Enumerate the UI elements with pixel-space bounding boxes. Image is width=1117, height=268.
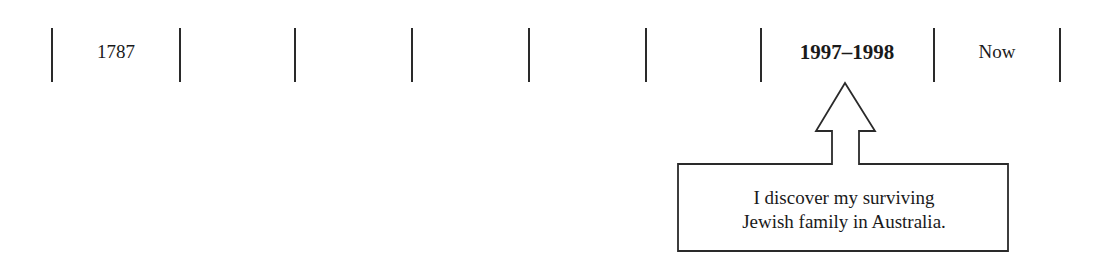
callout-line-2: Jewish family in Australia. (680, 210, 1008, 234)
callout-text: I discover my surviving Jewish family in… (680, 186, 1008, 234)
callout-line-1: I discover my surviving (680, 186, 1008, 210)
